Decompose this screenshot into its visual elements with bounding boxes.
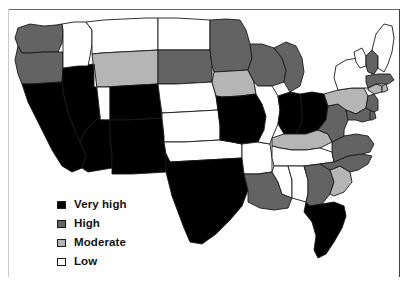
state-sd[interactable]: South Dakota — High <box>158 50 212 84</box>
state-ga[interactable]: Georgia — High <box>304 164 334 206</box>
state-id[interactable]: Idaho — Low <box>62 22 92 68</box>
state-fl[interactable]: Florida — Very high <box>304 202 346 258</box>
legend-label-very-high: Very high <box>74 199 127 211</box>
state-wa[interactable]: Washington — High <box>15 24 63 53</box>
state-nd[interactable]: North Dakota — Low <box>158 18 210 50</box>
legend-swatch-low <box>57 258 66 266</box>
legend-label-high: High <box>74 218 100 230</box>
state-in[interactable]: Indiana — Very high <box>278 92 302 134</box>
legend-item-low[interactable]: Low <box>57 253 187 271</box>
legend-swatch-high <box>57 220 66 228</box>
choropleth-figure: Washington — HighOregon — HighCalifornia… <box>0 0 408 285</box>
legend-item-very-high[interactable]: Very high <box>57 196 187 214</box>
state-ks[interactable]: Kansas — Low <box>162 110 220 142</box>
legend-label-low: Low <box>74 256 97 268</box>
state-co[interactable]: Colorado — Very high <box>110 84 162 120</box>
state-nj[interactable]: New Jersey — High <box>366 94 378 112</box>
state-mt[interactable]: Montana — Low <box>86 18 158 54</box>
state-ar[interactable]: Arkansas — Low <box>242 142 272 174</box>
state-nm[interactable]: New Mexico — Very high <box>110 118 166 174</box>
legend-item-high[interactable]: High <box>57 215 187 233</box>
state-mo[interactable]: Missouri — Very high <box>216 94 266 144</box>
state-wy[interactable]: Wyoming — Moderate <box>92 50 158 87</box>
legend-label-moderate: Moderate <box>74 237 126 249</box>
legend-item-moderate[interactable]: Moderate <box>57 234 187 252</box>
legend-swatch-very-high <box>57 201 66 209</box>
state-ri[interactable]: Rhode Island — Moderate <box>382 84 388 92</box>
state-mn[interactable]: Minnesota — High <box>210 19 252 72</box>
map-legend: Very high High Moderate Low <box>57 196 187 272</box>
state-ia[interactable]: Iowa — Moderate <box>212 70 256 97</box>
state-ne[interactable]: Nebraska — Low <box>158 82 218 113</box>
legend-swatch-moderate <box>57 239 66 247</box>
